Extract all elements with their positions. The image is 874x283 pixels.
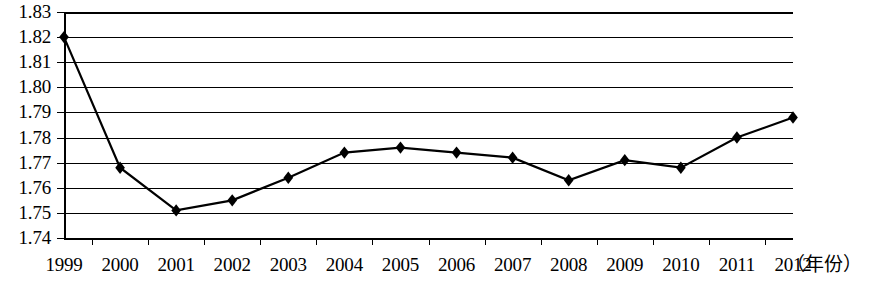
x-axis-tick-label: 2010 (653, 255, 709, 274)
x-axis-tick-label: 2008 (541, 255, 597, 274)
data-point-marker (59, 31, 69, 43)
data-point-marker (508, 151, 518, 163)
x-axis-tick-label: 2006 (429, 255, 485, 274)
data-point-marker (620, 154, 630, 166)
y-axis-tick-label: 1.74 (0, 228, 51, 247)
data-point-marker (227, 194, 237, 206)
x-axis-tick-label: 2003 (260, 255, 316, 274)
data-point-marker (396, 141, 406, 153)
y-axis-tick-label: 1.83 (0, 2, 51, 21)
x-axis-tick-label: 2007 (485, 255, 541, 274)
gridlines (64, 13, 793, 239)
data-point-marker (452, 146, 462, 158)
x-axis-tick-label: 2002 (204, 255, 260, 274)
x-axis-title: （年份） (786, 255, 862, 274)
y-axis-tick-label: 1.77 (0, 153, 51, 172)
x-axis-tick-label: 2004 (316, 255, 372, 274)
x-axis-tick-label: 2009 (597, 255, 653, 274)
data-point-marker (283, 172, 293, 184)
y-axis-tick-label: 1.76 (0, 178, 51, 197)
y-axis-tick-label: 1.79 (0, 102, 51, 121)
y-axis-tick-label: 1.80 (0, 77, 51, 96)
data-point-marker (171, 204, 181, 216)
x-axis-tick-label: 1999 (36, 255, 92, 274)
x-axis-tick-label: 2005 (372, 255, 428, 274)
y-axis-tick-label: 1.75 (0, 203, 51, 222)
y-axis-tick-label: 1.78 (0, 128, 51, 147)
y-axis-ticks (57, 13, 64, 239)
line-chart: 1.831.821.811.801.791.781.771.761.751.74… (0, 0, 874, 283)
x-axis-tick-label: 2000 (92, 255, 148, 274)
data-point-marker (732, 131, 742, 143)
plot-area (0, 0, 874, 283)
data-point-marker (340, 146, 350, 158)
y-axis-tick-label: 1.82 (0, 27, 51, 46)
x-axis-tick-label: 2001 (148, 255, 204, 274)
data-point-marker (564, 174, 574, 186)
x-axis-tick-label: 2011 (709, 255, 765, 274)
y-axis-tick-label: 1.81 (0, 52, 51, 71)
